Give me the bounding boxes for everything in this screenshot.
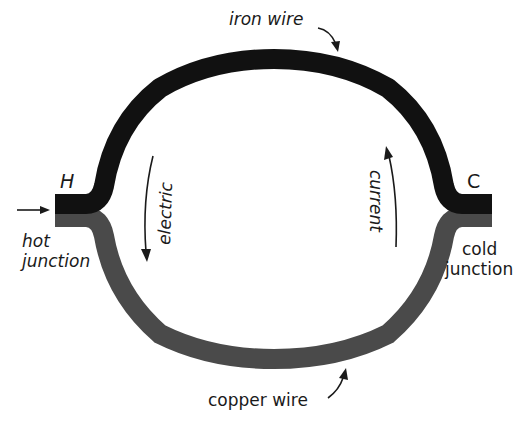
- hot-junction-label-line1: hot: [22, 232, 50, 251]
- iron-wire-pointer-icon: [318, 28, 340, 52]
- copper-wire-stroke: [55, 217, 492, 359]
- electric-label: electric: [154, 181, 176, 245]
- cold-junction-label-line1: cold: [462, 240, 497, 259]
- hot-junction-letter: H: [60, 172, 74, 191]
- input-arrow-icon: [17, 206, 50, 214]
- cold-junction-label-line2: junction: [445, 260, 513, 279]
- electric-current-arrow-left-icon: [141, 156, 153, 262]
- iron-wire-label: iron wire: [229, 10, 303, 29]
- cold-junction-letter: C: [467, 172, 480, 191]
- iron-wire-stroke: [55, 59, 492, 204]
- current-label: current: [366, 170, 386, 233]
- copper-wire-label: copper wire: [208, 391, 308, 410]
- copper-wire-pointer-icon: [328, 368, 348, 398]
- thermocouple-diagram: electric current: [0, 0, 531, 424]
- hot-junction-label-line2: junction: [22, 252, 90, 271]
